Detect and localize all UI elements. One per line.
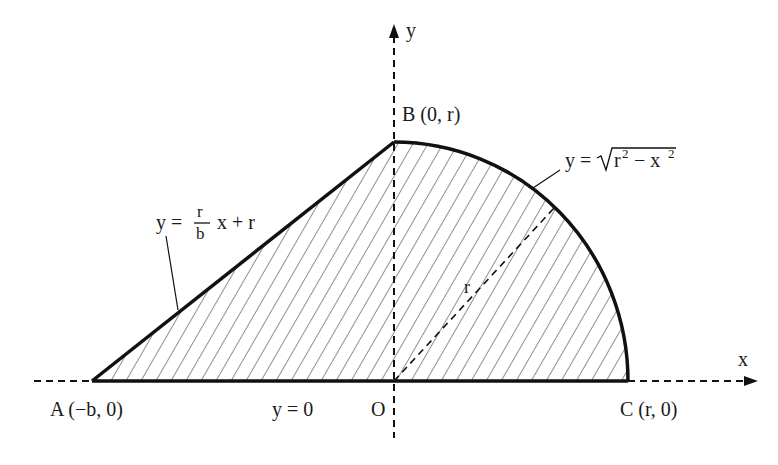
point-a-label: A (−b, 0) [50, 398, 123, 421]
arc-equation: y = r 2 − x 2 [565, 146, 676, 172]
svg-text:2: 2 [668, 146, 675, 161]
svg-text:2: 2 [622, 146, 629, 161]
base-equation: y = 0 [272, 398, 313, 421]
y-axis-label: y [406, 19, 416, 42]
svg-text:y =: y = [156, 211, 182, 234]
svg-text:r: r [614, 149, 621, 171]
line-eq-leader [166, 236, 178, 310]
line-equation: y = r b x + r [156, 202, 255, 243]
x-arrow-icon [744, 376, 758, 386]
svg-text:x + r: x + r [217, 211, 255, 233]
svg-text:− x: − x [634, 149, 660, 171]
x-axis-label: x [738, 348, 748, 370]
point-b-label: B (0, r) [402, 103, 460, 126]
point-c-label: C (r, 0) [620, 398, 678, 421]
diagram-canvas: y x B (0, r) A (−b, 0) C (r, 0) O y = 0 … [0, 0, 778, 465]
y-arrow-icon [389, 24, 399, 38]
origin-label: O [371, 398, 385, 420]
fraction-numerator: r [197, 202, 203, 221]
fraction-denominator: b [196, 224, 205, 243]
radius-label: r [464, 277, 470, 297]
svg-text:y =: y = [565, 149, 591, 172]
arc-eq-leader [533, 170, 560, 188]
